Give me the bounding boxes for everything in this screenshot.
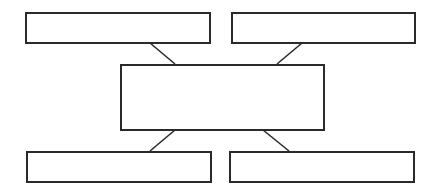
edge-center-to-bottom-right — [263, 130, 289, 151]
node-top-right — [231, 12, 416, 44]
node-bottom-left — [26, 151, 212, 183]
diagram-canvas — [0, 0, 437, 190]
center-node — [120, 64, 325, 131]
edge-top-right-to-center — [277, 43, 302, 64]
node-bottom-right — [229, 151, 415, 183]
node-top-left — [25, 12, 211, 44]
edge-top-left-to-center — [150, 43, 175, 64]
edge-center-to-bottom-left — [150, 130, 175, 151]
